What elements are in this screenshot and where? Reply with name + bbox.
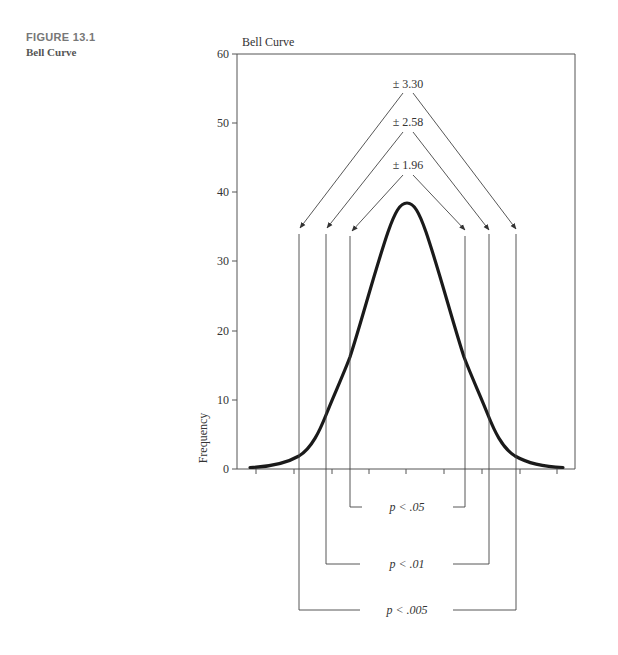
y-tick-label: 30 xyxy=(217,254,229,268)
critical-label-1-96: ± 1.96 xyxy=(393,158,424,172)
critical-label-3-30: ± 3.30 xyxy=(393,77,424,91)
critical-value-lines xyxy=(299,234,516,610)
y-axis-label: Frequency xyxy=(196,413,210,464)
y-tick-label: 40 xyxy=(217,185,229,199)
y-tick-label: 10 xyxy=(217,393,229,407)
p-label-01: p < .01 xyxy=(388,557,424,571)
bell-curve-chart: Bell Curve 60 50 40 30 20 10 0 Frequency xyxy=(0,0,618,655)
critical-label-2-58: ± 2.58 xyxy=(393,115,424,129)
p-label-005: p < .005 xyxy=(385,603,427,617)
y-axis: 60 50 40 30 20 10 0 Frequency xyxy=(196,47,237,476)
chart-title: Bell Curve xyxy=(242,35,294,49)
x-axis-ticks xyxy=(256,469,557,474)
y-tick-label: 20 xyxy=(217,324,229,338)
p-label-05: p < .05 xyxy=(388,500,424,514)
y-tick-label: 50 xyxy=(217,116,229,130)
y-tick-label: 60 xyxy=(217,47,229,61)
y-tick-label: 0 xyxy=(223,462,229,476)
